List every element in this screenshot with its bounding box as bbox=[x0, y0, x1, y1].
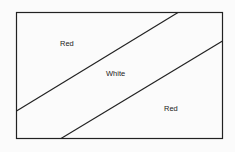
diagonal-line-lower bbox=[61, 41, 223, 139]
region-label-upper-left: Red bbox=[60, 39, 74, 48]
diagonal-line-upper bbox=[17, 13, 179, 112]
region-label-lower-right: Red bbox=[164, 104, 178, 113]
region-label-middle: White bbox=[106, 69, 125, 78]
